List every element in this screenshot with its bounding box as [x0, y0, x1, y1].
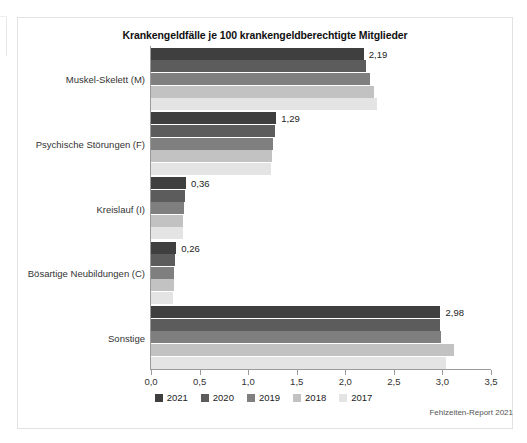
chart-figure: Krankengeldfälle je 100 krankengeldberec… [0, 0, 527, 443]
bar-value-label: 0,36 [191, 178, 210, 189]
chart-legend: 20212020201920182017 [0, 392, 527, 403]
bar [151, 279, 174, 291]
bar [151, 86, 374, 98]
x-tick-label: 0,0 [144, 376, 157, 387]
x-tick-label: 2,0 [339, 376, 352, 387]
x-tick-label: 3,0 [436, 376, 449, 387]
legend-swatch-icon [155, 394, 163, 402]
category-label: Psychische Störungen (F) [36, 138, 145, 149]
bar-value-label: 0,26 [181, 242, 200, 253]
legend-label: 2019 [259, 392, 280, 403]
x-tick-label: 0,5 [193, 376, 206, 387]
page-edge-artifact [0, 16, 7, 56]
legend-swatch-icon [247, 394, 255, 402]
bar [151, 150, 272, 162]
bar [151, 190, 185, 202]
bar [151, 163, 271, 175]
bar [151, 215, 183, 227]
bar [151, 331, 441, 343]
bar [151, 227, 183, 239]
bar-value-label: 2,19 [369, 48, 388, 59]
legend-label: 2020 [213, 392, 234, 403]
x-tick [394, 370, 395, 375]
legend-swatch-icon [293, 394, 301, 402]
x-tick [345, 370, 346, 375]
category-label: Muskel-Skelett (M) [66, 74, 145, 85]
legend-item: 2018 [293, 392, 326, 403]
legend-label: 2021 [167, 392, 188, 403]
bar [151, 138, 273, 150]
x-tick-label: 2,5 [387, 376, 400, 387]
chart-title: Krankengeldfälle je 100 krankengeldberec… [18, 29, 512, 41]
bar-value-label: 2,98 [445, 307, 464, 318]
bar [151, 125, 275, 137]
x-axis-line [150, 369, 491, 370]
bar [151, 254, 175, 266]
bar [151, 48, 364, 60]
legend-item: 2020 [201, 392, 234, 403]
x-tick-label: 1,0 [242, 376, 255, 387]
bar [151, 292, 173, 304]
legend-label: 2017 [351, 392, 372, 403]
x-tick [491, 370, 492, 375]
legend-item: 2019 [247, 392, 280, 403]
x-tick [297, 370, 298, 375]
bar [151, 306, 440, 318]
bar [151, 344, 454, 356]
x-tick [200, 370, 201, 375]
legend-item: 2021 [155, 392, 188, 403]
legend-label: 2018 [305, 392, 326, 403]
x-tick-label: 1,5 [290, 376, 303, 387]
category-label: Kreislauf (I) [96, 203, 145, 214]
source-note: Fehlzeiten-Report 2021 [429, 408, 513, 417]
bar [151, 267, 174, 279]
category-label: Sonstige [108, 332, 145, 343]
bar [151, 357, 446, 369]
bar [151, 112, 276, 124]
legend-swatch-icon [201, 394, 209, 402]
bar-value-label: 1,29 [281, 113, 300, 124]
bar [151, 177, 186, 189]
category-label: Bösartige Neubildungen (C) [28, 268, 145, 279]
bar [151, 60, 366, 72]
x-tick [248, 370, 249, 375]
legend-item: 2017 [339, 392, 372, 403]
bar [151, 73, 370, 85]
x-tick-label: 3,5 [484, 376, 497, 387]
legend-swatch-icon [339, 394, 347, 402]
bar [151, 319, 440, 331]
x-tick [442, 370, 443, 375]
x-tick [151, 370, 152, 375]
bar [151, 98, 377, 110]
bar [151, 242, 176, 254]
bar [151, 202, 184, 214]
